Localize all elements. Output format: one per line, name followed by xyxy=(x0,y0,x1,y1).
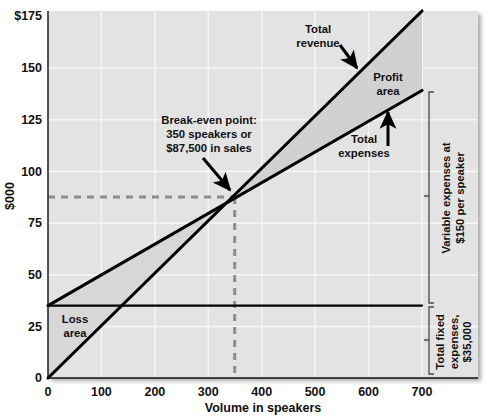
total-revenue-label-line-1: Total xyxy=(305,23,331,35)
fixed-expenses-bracket-line-2: expenses, xyxy=(448,315,460,370)
break-even-note-line-2: 350 speakers or xyxy=(166,128,252,140)
profit-area-line-1: Profit xyxy=(373,71,403,83)
y-tick-label-100: 100 xyxy=(21,165,42,179)
total-expenses-label-line-1: Total xyxy=(351,133,377,145)
loss-area-line-2: area xyxy=(63,327,87,339)
total-revenue-label-line-2: revenue xyxy=(296,37,339,49)
y-axis-ticks: 0 25 50 75 100 125 150 $175 xyxy=(14,9,42,385)
y-tick-label-150: 150 xyxy=(21,61,42,75)
y-tick-label-175: $175 xyxy=(14,9,42,23)
x-tick-label-500: 500 xyxy=(305,385,326,399)
y-tick-label-0: 0 xyxy=(35,371,42,385)
y-tick-label-25: 25 xyxy=(28,320,42,334)
x-axis-ticks: 0 100 200 300 400 500 600 700 xyxy=(45,385,433,399)
y-tick-label-125: 125 xyxy=(21,113,42,127)
x-tick-label-400: 400 xyxy=(251,385,272,399)
x-tick-label-100: 100 xyxy=(91,385,112,399)
x-tick-label-300: 300 xyxy=(198,385,219,399)
x-tick-label-600: 600 xyxy=(358,385,379,399)
break-even-chart: 0 25 50 75 100 125 150 $175 0 100 200 30… xyxy=(0,0,488,417)
x-tick-label-700: 700 xyxy=(412,385,433,399)
fixed-expenses-bracket-line-1: Total fixed xyxy=(434,314,446,370)
profit-area-line-2: area xyxy=(376,85,400,97)
chart-canvas: 0 25 50 75 100 125 150 $175 0 100 200 30… xyxy=(0,0,488,417)
break-even-note-line-3: $87,500 in sales xyxy=(166,142,251,154)
y-axis-title: $000 xyxy=(3,182,17,210)
break-even-note-line-1: Break-even point: xyxy=(161,114,256,126)
variable-expenses-bracket-line-1: Variable expenses at xyxy=(440,142,452,253)
loss-area-line-1: Loss xyxy=(62,313,88,325)
y-tick-label-50: 50 xyxy=(28,268,42,282)
total-expenses-label-line-2: expenses xyxy=(338,147,390,159)
variable-expenses-bracket-line-2: $150 per speaker xyxy=(454,152,466,244)
y-tick-label-75: 75 xyxy=(28,216,42,230)
x-tick-label-200: 200 xyxy=(144,385,165,399)
x-axis-title: Volume in speakers xyxy=(205,401,322,415)
fixed-expenses-bracket-line-3: $35,000 xyxy=(461,322,473,363)
x-tick-label-0: 0 xyxy=(45,385,52,399)
